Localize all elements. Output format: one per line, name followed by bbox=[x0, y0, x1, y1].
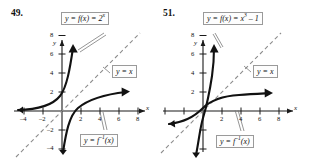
y-tick-label: 2 bbox=[191, 88, 194, 95]
figure-panel-49: 49. bbox=[0, 0, 154, 164]
y-tick-label: –4 bbox=[47, 144, 54, 151]
x-tick-label: 4 bbox=[98, 115, 101, 122]
x-tick-label: 2 bbox=[220, 115, 223, 122]
x-tick-label: 6 bbox=[117, 115, 120, 122]
y-tick-label: 8 bbox=[50, 31, 53, 38]
identity-line-49 bbox=[16, 33, 140, 157]
callout-inverse-49: y = f–1(x) bbox=[80, 134, 118, 147]
x-tick-label: 8 bbox=[136, 115, 139, 122]
x-tick-label: 8 bbox=[277, 115, 280, 122]
y-tick-label: –2 bbox=[47, 126, 54, 133]
callout-function-text: y = f(x) = x bbox=[207, 14, 244, 23]
x-axis-label: x bbox=[294, 104, 297, 112]
y-axis-label: y bbox=[194, 39, 197, 47]
y-tick-label: 6 bbox=[191, 50, 194, 57]
callout-identity-51: y = x bbox=[253, 65, 278, 78]
x-axis-label: x bbox=[146, 104, 149, 112]
callout-identity-49: y = x bbox=[112, 65, 137, 78]
y-tick-label: 4 bbox=[50, 69, 53, 76]
callout-function-exponent: x bbox=[102, 12, 104, 18]
callout-function-51: y = f(x) = x3 – 1 bbox=[203, 12, 263, 25]
x-tick-label: –2 bbox=[39, 115, 46, 122]
callout-function-49: y = f(x) = 2x bbox=[61, 12, 109, 25]
callout-inverse-text: y = f bbox=[220, 137, 235, 146]
callout-inverse-suffix: (x) bbox=[241, 137, 250, 146]
y-tick-label: 8 bbox=[191, 31, 194, 38]
leader-lines-49 bbox=[78, 33, 110, 130]
x-tick-label: –4 bbox=[20, 115, 27, 122]
y-tick-label: 6 bbox=[50, 50, 53, 57]
y-axis-label: y bbox=[53, 39, 56, 47]
figure-panel-51: 51. bbox=[155, 0, 309, 164]
x-tick-label: 2 bbox=[79, 115, 82, 122]
curve-f-49 bbox=[18, 44, 78, 114]
y-tick-label: 4 bbox=[191, 69, 194, 76]
callout-identity-text: y = x bbox=[116, 67, 133, 76]
callout-inverse-51: y = f–1(x) bbox=[216, 135, 254, 148]
callout-identity-text: y = x bbox=[257, 67, 274, 76]
x-tick-label: 4 bbox=[239, 115, 242, 122]
y-tick-label: 2 bbox=[50, 88, 53, 95]
callout-function-suffix: – 1 bbox=[247, 14, 259, 23]
callout-inverse-suffix: (x) bbox=[105, 136, 114, 145]
x-tick-label: 6 bbox=[258, 115, 261, 122]
callout-function-text: y = f(x) = 2 bbox=[65, 14, 102, 23]
textbook-figure: 49. bbox=[0, 0, 309, 164]
callout-inverse-text: y = f bbox=[84, 136, 99, 145]
